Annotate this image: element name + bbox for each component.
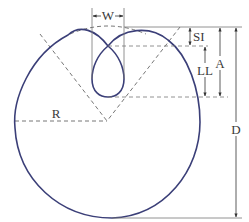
label-a: A <box>215 56 225 71</box>
label-r: R <box>52 106 61 121</box>
label-d: D <box>231 122 240 137</box>
inner-loop <box>92 46 124 97</box>
label-ll: LL <box>197 63 213 78</box>
label-w: W <box>102 8 115 23</box>
label-si: SI <box>193 29 205 44</box>
loop-circle-diagram: W SI LL A D R <box>0 0 249 222</box>
outer-profile <box>15 29 200 218</box>
